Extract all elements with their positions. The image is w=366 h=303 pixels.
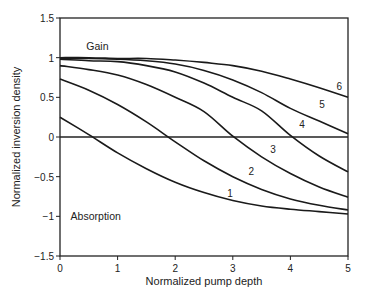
y-tick-label: −1 <box>43 211 55 222</box>
y-tick-label: 0.5 <box>40 92 54 103</box>
y-tick-label: −0.5 <box>34 172 54 183</box>
curve-label-6: 6 <box>337 81 343 92</box>
annotation-gain: Gain <box>86 40 108 52</box>
y-tick-label: 1 <box>48 53 54 64</box>
curve-1 <box>60 117 348 214</box>
curve-label-1: 1 <box>227 188 233 199</box>
y-axis-label: Normalized inversion density <box>10 66 22 207</box>
curve-3 <box>60 66 348 198</box>
x-axis-label: Normalized pump depth <box>146 275 263 287</box>
chart: 1.510.50−0.5−1−1.5012345 123456GainAbsor… <box>0 0 366 303</box>
curve-6 <box>60 58 348 98</box>
x-tick-label: 0 <box>57 263 63 274</box>
curve-labels: 123456GainAbsorption <box>71 40 343 223</box>
x-tick-label: 2 <box>172 263 178 274</box>
curve-label-2: 2 <box>248 166 254 177</box>
x-tick-label: 5 <box>345 263 351 274</box>
axis-ticks: 1.510.50−0.5−1−1.5012345 <box>34 13 351 274</box>
annotation-absorption: Absorption <box>71 210 121 222</box>
x-tick-label: 3 <box>230 263 236 274</box>
y-tick-label: 0 <box>48 132 54 143</box>
curves <box>60 58 348 214</box>
y-tick-label: −1.5 <box>34 251 54 262</box>
y-tick-label: 1.5 <box>40 13 54 24</box>
curve-label-3: 3 <box>270 144 276 155</box>
x-tick-label: 4 <box>288 263 294 274</box>
curve-label-4: 4 <box>299 119 305 130</box>
x-tick-label: 1 <box>115 263 121 274</box>
curve-label-5: 5 <box>319 99 325 110</box>
